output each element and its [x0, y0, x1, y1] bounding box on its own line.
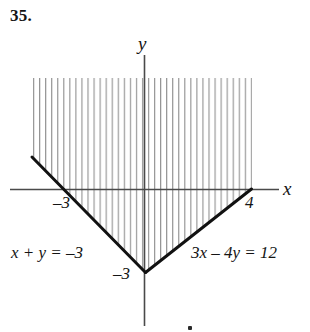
x-axis-label: x: [283, 178, 291, 200]
scan-artifact-mark: [188, 326, 192, 330]
tick-label-y-negative-3: –3: [113, 264, 130, 284]
coordinate-plot: [0, 0, 310, 332]
equation-label-right-line: 3x – 4y = 12: [191, 243, 277, 263]
tick-label-x-negative-3: –3: [53, 193, 70, 213]
y-axis-label: y: [138, 33, 146, 55]
tick-label-x-4: 4: [245, 193, 254, 213]
equation-label-left-line: x + y = –3: [11, 243, 83, 263]
graph-figure: 35. y x –3 4 –3 x + y = –3 3x – 4y = 12: [0, 0, 310, 332]
